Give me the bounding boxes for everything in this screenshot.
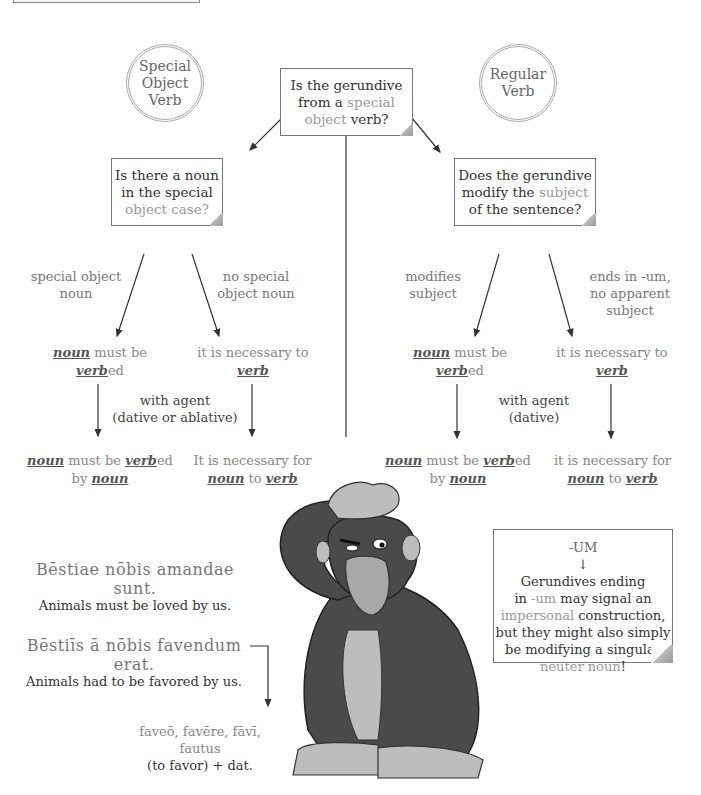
note-line: impersonal construction,	[494, 607, 672, 624]
down-arrow-icon: ↓	[494, 556, 672, 573]
latin-sentence: Bēstiae nōbis amandae sunt.	[30, 560, 240, 598]
question-line: modify the subject	[455, 184, 595, 201]
question-line: object case?	[112, 201, 222, 218]
circle-line: Special	[139, 58, 191, 75]
example-sentence-2: Bēstiīs ā nōbis favendum erat. Animals h…	[14, 636, 254, 689]
question-line: of the sentence?	[455, 201, 595, 218]
circle-line: Verb	[139, 92, 191, 109]
note-line: but they might also simply	[494, 624, 672, 641]
vocab-meaning: (to favor) + dat.	[130, 757, 270, 774]
agent-label-dative: with agent(dative)	[494, 392, 574, 426]
question-box-noun-in-case: Is there a noun in the special object ca…	[111, 158, 223, 226]
example-sentence-1: Bēstiae nōbis amandae sunt. Animals must…	[30, 560, 240, 613]
note-line: neuter noun!	[494, 658, 672, 675]
note-line: in -um may signal an	[494, 590, 672, 607]
result-necessary-to-verb-left: it is necessary to verb	[193, 344, 313, 380]
page-curl-icon	[207, 214, 223, 226]
latin-sentence: Bēstiīs ā nōbis favendum erat.	[14, 636, 254, 674]
final-noun-must-be-verbed-by-noun-left: noun must be verbed by noun	[20, 452, 180, 488]
circle-line: Object	[139, 75, 191, 92]
special-object-verb-circle: Special Object Verb	[126, 44, 204, 122]
regular-verb-circle: Regular Verb	[479, 44, 557, 122]
branch-label-special-object-noun: special objectnoun	[26, 268, 126, 302]
um-ending-note: -UM ↓ Gerundives ending in -um may signa…	[493, 529, 673, 663]
result-noun-must-be-verbed-left: noun must be verbed	[40, 344, 160, 380]
question-box-special-object-verb: Is the gerundive from a special object v…	[280, 68, 413, 136]
question-line: Is there a noun	[112, 167, 222, 184]
note-title: -UM	[494, 530, 672, 556]
circle-line: Regular	[490, 66, 546, 83]
question-line: from a special	[281, 94, 412, 111]
final-necessary-for-noun-to-verb-right: it is necessary for noun to verb	[545, 452, 680, 488]
branch-label-modifies-subject: modifiessubject	[398, 268, 468, 302]
circle-line: Verb	[490, 83, 546, 100]
question-line: Is the gerundive	[281, 77, 412, 94]
agent-label-dative-or-ablative: with agent(dative or ablative)	[110, 392, 240, 426]
question-line: Does the gerundive	[455, 167, 595, 184]
english-translation: Animals had to be favored by us.	[14, 674, 254, 689]
question-line: in the special	[112, 184, 222, 201]
branch-label-no-special-object-noun: no specialobject noun	[206, 268, 306, 302]
vocab-entry-faveo: faveō, favēre, fāvī, fautus (to favor) +…	[130, 723, 270, 774]
page-curl-icon	[580, 214, 596, 226]
result-noun-must-be-verbed-right: noun must be verbed	[400, 344, 520, 380]
page-curl-icon	[397, 124, 413, 136]
principal-parts: faveō, favēre, fāvī, fautus	[130, 723, 270, 757]
result-necessary-to-verb-right: it is necessary to verb	[552, 344, 672, 380]
page-curl-icon	[651, 645, 673, 663]
question-line: object verb?	[281, 111, 412, 128]
note-line: be modifying a singular	[494, 641, 672, 658]
english-translation: Animals must be loved by us.	[30, 598, 240, 613]
note-line: Gerundives ending	[494, 573, 672, 590]
branch-label-ends-in-um: ends in -um,no apparentsubject	[580, 268, 680, 319]
question-box-modify-subject: Does the gerundive modify the subject of…	[454, 158, 596, 226]
gorilla-illustration	[268, 480, 518, 780]
